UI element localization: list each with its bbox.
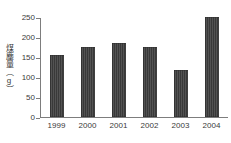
y-tick-label-50: 50 (26, 93, 35, 102)
x-tick-label-2000: 2000 (72, 121, 103, 131)
x-tick-label-2003: 2003 (165, 121, 196, 131)
bar-2003[interactable] (174, 70, 188, 117)
bar-slot-1999 (41, 18, 72, 117)
y-tick-label-0: 0 (31, 113, 35, 122)
bar-2002[interactable] (143, 47, 157, 117)
bar-2001[interactable] (112, 43, 126, 117)
x-tick-label-2004: 2004 (196, 121, 227, 131)
x-axis-labels: 1999 2000 2001 2002 2003 2004 (41, 121, 229, 135)
y-tick-label-200: 200 (22, 33, 35, 42)
bar-slot-2000 (72, 18, 103, 117)
bars-layer (41, 18, 228, 117)
y-tick-label-150: 150 (22, 53, 35, 62)
plot-area: 0 50 100 150 200 250 (40, 18, 228, 118)
x-axis-line (40, 117, 228, 118)
bar-slot-2004 (196, 18, 227, 117)
bar-2004[interactable] (205, 17, 219, 117)
bar-chart: 煤塵量（g） 0 50 100 150 200 250 (0, 0, 231, 143)
bar-slot-2003 (165, 18, 196, 117)
x-tick-label-2001: 2001 (103, 121, 134, 131)
y-tick-label-100: 100 (22, 73, 35, 82)
bar-1999[interactable] (50, 55, 64, 117)
x-tick-label-2002: 2002 (134, 121, 165, 131)
y-axis-title-text: 煤塵量（g） (5, 44, 14, 93)
x-tick-label-1999: 1999 (41, 121, 72, 131)
bar-slot-2002 (134, 18, 165, 117)
bar-2000[interactable] (81, 47, 95, 117)
bar-slot-2001 (103, 18, 134, 117)
y-axis-title: 煤塵量（g） (2, 44, 16, 104)
y-tick-label-250: 250 (22, 13, 35, 22)
